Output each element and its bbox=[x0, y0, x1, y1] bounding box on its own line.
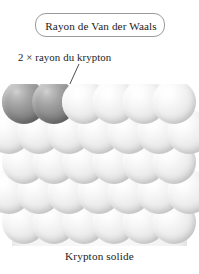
van-der-waals-radius-callout-box: Rayon de Van der Waals bbox=[35, 13, 165, 37]
van-der-waals-radius-label: Rayon de Van der Waals bbox=[36, 14, 166, 38]
krypton-solid-figure: Rayon de Van der Waals 2 × rayon du kryp… bbox=[0, 0, 199, 274]
krypton-lattice bbox=[0, 84, 199, 246]
figure-caption: Krypton solide bbox=[0, 250, 199, 262]
krypton-radius-annotation-label: 2 × rayon du krypton bbox=[18, 51, 111, 63]
